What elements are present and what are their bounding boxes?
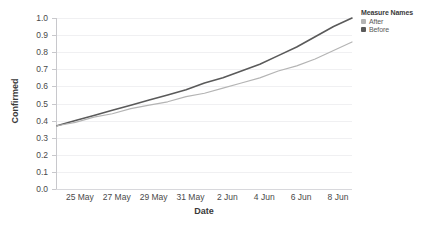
series-layer	[0, 0, 430, 230]
line-chart: Confirmed 1.00.90.80.70.60.50.40.30.20.1…	[0, 0, 430, 230]
series-line-before	[57, 18, 352, 126]
